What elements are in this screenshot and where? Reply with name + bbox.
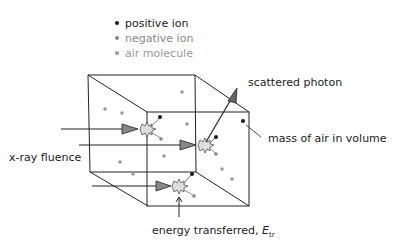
legend-label: negative ion: [125, 32, 193, 45]
legend-label: air molecule: [125, 47, 193, 60]
scattered-photon-label: scattered photon: [248, 76, 342, 89]
interaction-1: [122, 115, 163, 141]
energy-transferred-label: energy transferred, Etr: [152, 224, 275, 242]
mass-of-air-label: mass of air in volume: [268, 132, 387, 145]
energy-subscript: tr: [269, 231, 275, 239]
xray-fluence-label: x-ray fluence: [9, 151, 81, 164]
positive-ion-dot-icon: [115, 21, 119, 25]
ionization-chamber-diagram: [0, 0, 397, 244]
mass-of-air-pointer: [241, 119, 261, 137]
legend-label: positive ion: [125, 17, 188, 30]
interaction-3: [156, 172, 196, 217]
negative-ion-dot-icon: [115, 36, 119, 40]
legend-item-negative-ion: negative ion: [115, 32, 193, 45]
energy-transferred-text: energy transferred,: [152, 224, 262, 237]
air-molecule-dot-icon: [115, 51, 119, 55]
legend-item-air-molecule: air molecule: [115, 47, 193, 60]
air-molecule-dots: [103, 90, 234, 181]
legend-item-positive-ion: positive ion: [115, 17, 188, 30]
